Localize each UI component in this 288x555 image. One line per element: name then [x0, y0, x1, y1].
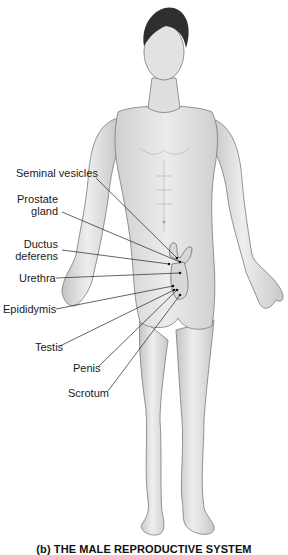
label-seminal-vesicles: Seminal vesicles [16, 167, 98, 179]
right-arm [210, 118, 283, 308]
label-text: Epididymis [3, 303, 56, 315]
label-text: Urethra [19, 272, 56, 284]
label-text: deferens [10, 250, 58, 262]
label-testis: Testis [35, 341, 63, 353]
label-text: Prostate [14, 193, 58, 205]
label-ductus-deferens: Ductus deferens [10, 238, 58, 262]
torso [115, 106, 218, 329]
label-text: Ductus [10, 238, 58, 250]
figure-caption: (b) THE MALE REPRODUCTIVE SYSTEM [0, 543, 288, 555]
label-urethra: Urethra [19, 272, 56, 284]
label-text: Testis [35, 341, 63, 353]
label-penis: Penis [73, 362, 101, 374]
label-text: Penis [73, 362, 101, 374]
label-text: gland [14, 205, 58, 217]
label-epididymis: Epididymis [3, 303, 56, 315]
label-scrotum: Scrotum [68, 387, 109, 399]
left-leg [139, 318, 168, 535]
label-prostate-gland: Prostate gland [14, 193, 58, 217]
label-text: Scrotum [68, 387, 109, 399]
neck [148, 78, 180, 113]
label-text: Seminal vesicles [16, 167, 98, 179]
right-leg [176, 320, 214, 534]
